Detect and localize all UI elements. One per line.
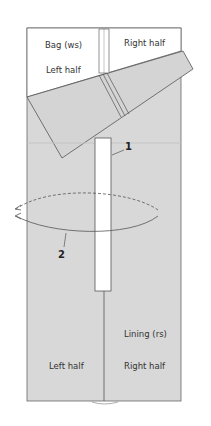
bottom-notch	[92, 402, 118, 404]
callout-1: 1	[125, 141, 132, 152]
sewing-diagram: 1 2 Bag (ws) Left half Right half Lining…	[0, 0, 211, 426]
lining-left-half-label: Left half	[49, 361, 85, 371]
bag-left-half-label: Left half	[46, 65, 82, 75]
callout-2: 2	[58, 249, 65, 260]
bag-right-half-label: Right half	[124, 38, 166, 48]
lining-label: Lining (rs)	[124, 329, 167, 339]
bag-label: Bag (ws)	[45, 40, 82, 50]
turning-opening	[95, 138, 111, 291]
lining-right-half-label: Right half	[124, 361, 166, 371]
